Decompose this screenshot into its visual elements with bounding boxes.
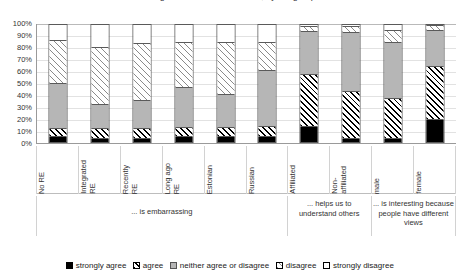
category-label: Russian	[247, 167, 256, 194]
stacked-bar[interactable]	[258, 24, 277, 143]
bar-segment-strongly-disagree[interactable]	[49, 25, 66, 41]
category-cell: female	[414, 146, 456, 194]
bar-segment-disagree[interactable]	[217, 43, 234, 96]
bar-segment-disagree[interactable]	[259, 43, 276, 71]
bar-segment-neither[interactable]	[175, 88, 192, 128]
bar-segment-neither[interactable]	[133, 101, 150, 129]
stacked-bar[interactable]	[48, 24, 67, 143]
legend-item-strongly-agree[interactable]: strongly agree	[66, 261, 126, 270]
bar-segment-agree[interactable]	[259, 127, 276, 138]
stacked-bar[interactable]	[174, 24, 193, 143]
y-tick-label: 60%	[17, 68, 32, 76]
bar-slot	[79, 24, 121, 143]
bar-segment-neither[interactable]	[343, 33, 360, 92]
bar-segment-agree[interactable]	[133, 129, 150, 138]
legend-label: strongly disagree	[333, 261, 394, 270]
stacked-bar[interactable]	[216, 24, 235, 143]
bar-segment-agree[interactable]	[175, 128, 192, 137]
category-cell: IntegratedRE	[79, 146, 121, 194]
bar-segment-agree[interactable]	[385, 99, 402, 139]
bar-segment-disagree[interactable]	[49, 41, 66, 83]
category-label: Estonian	[205, 165, 214, 194]
legend-swatch-icon	[133, 262, 140, 269]
bar-segment-strongly-agree[interactable]	[427, 120, 444, 142]
bar-segment-neither[interactable]	[427, 31, 444, 67]
legend-item-strongly-disagree[interactable]: strongly disagree	[323, 261, 393, 270]
y-tick-label: 50%	[17, 80, 32, 88]
category-cell: Affiliated	[288, 146, 330, 194]
bar-segment-strongly-agree[interactable]	[133, 139, 150, 143]
chart-title: Religious education at school, by subgro…	[0, 0, 460, 2]
bar-segment-disagree[interactable]	[385, 31, 402, 43]
bar-segment-strongly-disagree[interactable]	[175, 25, 192, 43]
legend-label: neither agree or disagree	[180, 261, 269, 270]
bar-segment-neither[interactable]	[259, 71, 276, 127]
bar-segment-neither[interactable]	[301, 32, 318, 75]
bar-segment-strongly-agree[interactable]	[259, 137, 276, 142]
bar-segment-agree[interactable]	[217, 128, 234, 137]
legend-item-neither[interactable]: neither agree or disagree	[170, 261, 269, 270]
stacked-bar[interactable]	[90, 24, 109, 143]
bar-series-container	[37, 24, 456, 143]
bar-segment-neither[interactable]	[385, 43, 402, 99]
y-tick-label: 20%	[17, 116, 32, 124]
bar-segment-strongly-agree[interactable]	[385, 139, 402, 143]
bar-slot	[288, 24, 330, 143]
legend-swatch-icon	[66, 262, 73, 269]
legend-item-disagree[interactable]: disagree	[276, 261, 316, 270]
bar-segment-strongly-agree[interactable]	[49, 137, 66, 142]
bar-segment-strongly-agree[interactable]	[301, 127, 318, 142]
y-tick-label: 70%	[17, 56, 32, 64]
category-label: Long agoRE	[163, 163, 181, 194]
category-cell: Russian	[247, 146, 289, 194]
bar-segment-strongly-disagree[interactable]	[385, 25, 402, 31]
y-tick-label: 90%	[17, 32, 32, 40]
stacked-bar[interactable]	[384, 24, 403, 143]
bar-segment-agree[interactable]	[91, 129, 108, 138]
bar-segment-strongly-disagree[interactable]	[133, 25, 150, 44]
bar-segment-strongly-disagree[interactable]	[427, 25, 444, 26]
y-tick-label: 100%	[13, 20, 32, 28]
bar-segment-strongly-agree[interactable]	[91, 139, 108, 143]
bar-segment-strongly-agree[interactable]	[175, 137, 192, 142]
category-label: Non-affiliated	[330, 166, 348, 194]
stacked-bar[interactable]	[426, 24, 445, 143]
stacked-bar[interactable]	[300, 24, 319, 143]
bar-segment-agree[interactable]	[301, 75, 318, 126]
legend-swatch-icon	[276, 262, 283, 269]
bar-segment-strongly-agree[interactable]	[217, 137, 234, 142]
stacked-bar[interactable]	[342, 24, 361, 143]
bar-segment-strongly-agree[interactable]	[343, 139, 360, 143]
category-label: female	[414, 171, 423, 194]
bar-segment-strongly-disagree[interactable]	[91, 25, 108, 48]
bar-segment-strongly-disagree[interactable]	[343, 25, 360, 27]
category-label: RecentlyRE	[121, 165, 139, 194]
bar-slot	[414, 24, 456, 143]
bar-segment-neither[interactable]	[49, 84, 66, 130]
bar-segment-disagree[interactable]	[301, 27, 318, 32]
bar-segment-neither[interactable]	[91, 105, 108, 130]
plot-canvas	[36, 24, 456, 144]
bar-segment-disagree[interactable]	[343, 27, 360, 33]
bar-segment-disagree[interactable]	[133, 44, 150, 101]
bar-segment-agree[interactable]	[49, 129, 66, 137]
bar-segment-agree[interactable]	[427, 67, 444, 120]
y-tick-label: 80%	[17, 44, 32, 52]
stacked-bar[interactable]	[132, 24, 151, 143]
bar-segment-strongly-disagree[interactable]	[259, 25, 276, 43]
legend-item-agree[interactable]: agree	[133, 261, 163, 270]
bar-segment-neither[interactable]	[217, 95, 234, 128]
category-cell: Long agoRE	[163, 146, 205, 194]
bar-segment-agree[interactable]	[343, 92, 360, 139]
bar-segment-strongly-disagree[interactable]	[217, 25, 234, 43]
bar-segment-strongly-disagree[interactable]	[301, 25, 318, 27]
category-cell: male	[372, 146, 414, 194]
bar-segment-disagree[interactable]	[91, 48, 108, 104]
legend-label: strongly agree	[76, 261, 127, 270]
bar-segment-disagree[interactable]	[427, 26, 444, 31]
plot-area: 0%10%20%30%40%50%60%70%80%90%100%	[0, 18, 460, 146]
group-label-cell: ... is interesting because people have d…	[372, 196, 456, 236]
bar-segment-disagree[interactable]	[175, 43, 192, 89]
group-label: ... is interesting because people have d…	[372, 199, 455, 228]
legend-swatch-icon	[323, 262, 330, 269]
